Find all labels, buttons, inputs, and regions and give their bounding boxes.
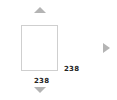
arrow-down-icon[interactable] — [34, 87, 46, 93]
width-label: 238 — [34, 78, 49, 85]
preview-box — [21, 25, 58, 71]
arrow-right-icon[interactable] — [103, 43, 110, 53]
height-label: 238 — [64, 66, 79, 73]
arrow-up-icon[interactable] — [34, 7, 46, 13]
